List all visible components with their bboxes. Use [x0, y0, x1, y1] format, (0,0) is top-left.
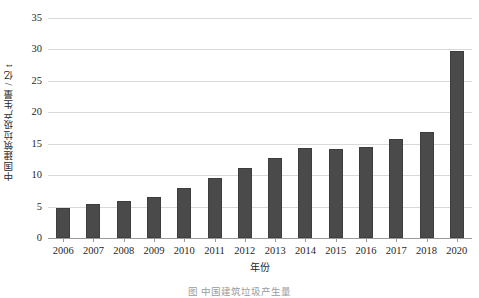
x-axis-tick-label: 2008	[113, 244, 134, 258]
x-axis-tick-mark	[124, 238, 125, 242]
x-axis-tick-mark	[63, 238, 64, 242]
x-axis-tick-mark	[366, 238, 367, 242]
x-axis-tick-mark	[427, 238, 428, 242]
x-axis-tick-label: 2013	[265, 244, 286, 258]
bar	[208, 178, 222, 238]
x-axis-tick-label: 2018	[416, 244, 437, 258]
y-axis-tick-label: 0	[37, 233, 42, 244]
y-axis-tick-label: 30	[32, 44, 43, 55]
x-axis-tick-label: 2014	[295, 244, 316, 258]
y-axis-tick-labels: 05101520253035	[18, 0, 46, 245]
x-axis-tick-mark	[275, 238, 276, 242]
x-axis-tick-label: 2011	[204, 244, 225, 258]
y-axis-tick-label: 35	[32, 13, 43, 24]
y-axis-tick-label: 20	[32, 107, 43, 118]
bar	[238, 168, 252, 238]
y-axis-tick-label: 25	[32, 76, 43, 87]
bar	[177, 188, 191, 238]
x-axis-tick-mark	[305, 238, 306, 242]
x-axis-tick-mark	[93, 238, 94, 242]
x-axis-tick-label: 2015	[325, 244, 346, 258]
bar	[268, 158, 282, 238]
y-axis-title-text: 中国建筑垃圾产生量 / 亿 t	[2, 64, 16, 181]
x-axis-tick-label: 2006	[53, 244, 74, 258]
x-axis-tick-label: 2012	[234, 244, 255, 258]
bar	[86, 204, 100, 238]
y-axis-title: 中国建筑垃圾产生量 / 亿 t	[0, 0, 18, 245]
y-axis-tick-label: 5	[37, 201, 42, 212]
x-axis-tick-label: 2016	[356, 244, 377, 258]
x-axis-tick-labels: 2006200720082009201020112012201320142015…	[48, 244, 472, 260]
bar	[147, 197, 161, 238]
x-axis-tick-mark	[245, 238, 246, 242]
bar	[117, 201, 131, 238]
y-axis-tick-label: 15	[32, 138, 43, 149]
x-axis-tick-label: 2017	[386, 244, 407, 258]
bar	[359, 147, 373, 238]
x-axis-tick-mark	[396, 238, 397, 242]
figure-caption: 图 中国建筑垃圾产生量	[0, 284, 479, 298]
bar	[450, 51, 464, 238]
bar-series	[48, 18, 472, 238]
x-axis-tick-mark	[215, 238, 216, 242]
bar	[298, 148, 312, 238]
x-axis-tick-label: 2020	[446, 244, 467, 258]
bar	[329, 149, 343, 238]
x-axis-tick-mark	[184, 238, 185, 242]
bar	[420, 132, 434, 238]
bar	[56, 208, 70, 238]
x-axis-tick-label: 2007	[83, 244, 104, 258]
y-axis-tick-label: 10	[32, 170, 43, 181]
x-axis-title: 年份	[48, 259, 472, 274]
plot-area	[48, 18, 472, 238]
bar	[389, 139, 403, 238]
x-axis-tick-label: 2010	[174, 244, 195, 258]
x-axis-tick-mark	[457, 238, 458, 242]
x-axis-tick-label: 2009	[144, 244, 165, 258]
x-axis-tick-mark	[336, 238, 337, 242]
x-axis-tick-mark	[154, 238, 155, 242]
